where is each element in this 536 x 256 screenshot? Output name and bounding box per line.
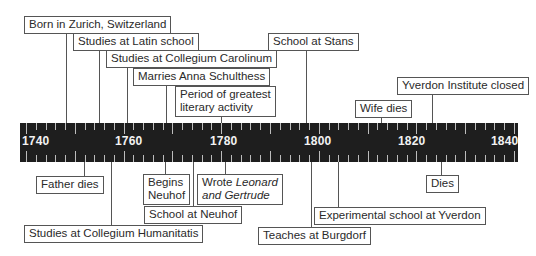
event-school-neuhof: School at Neuhof: [144, 206, 242, 224]
tick-mark: [358, 155, 359, 162]
tick-mark: [26, 151, 27, 162]
tick-mark: [280, 155, 281, 162]
connector-school-neuhof: [193, 162, 194, 210]
tick-mark: [485, 123, 486, 130]
tick-mark: [377, 155, 378, 162]
event-begins-neuhof: Begins Neuhof: [143, 174, 190, 205]
connector-latin-school: [99, 46, 100, 123]
event-wife-dies: Wife dies: [355, 100, 412, 118]
connector-humanitatis: [111, 162, 112, 234]
event-latin-school: Studies at Latin school: [73, 33, 199, 51]
tick-mark: [309, 155, 310, 162]
tick-mark: [475, 123, 476, 130]
tick-mark: [65, 155, 66, 162]
tick-mark: [290, 155, 291, 162]
event-father-dies: Father dies: [36, 176, 104, 194]
tick-mark: [514, 123, 515, 134]
tick-mark: [104, 155, 105, 162]
tick-mark: [299, 123, 300, 130]
tick-mark: [202, 123, 203, 130]
tick-mark: [319, 151, 320, 162]
tick-mark: [465, 123, 466, 134]
tick-mark: [514, 151, 515, 162]
tick-mark: [280, 123, 281, 130]
event-begins-line1: Begins: [148, 176, 185, 189]
year-label-1820: 1820: [398, 134, 426, 148]
tick-mark: [407, 155, 408, 162]
tick-mark: [329, 123, 330, 130]
tick-mark: [397, 155, 398, 162]
tick-mark: [192, 155, 193, 162]
connector-yverdon-closed: [432, 91, 433, 123]
tick-mark: [75, 151, 76, 162]
connector-burgdorf: [311, 162, 312, 230]
tick-mark: [133, 123, 134, 130]
connector-marries: [166, 82, 167, 123]
event-collegium-carolinum: Studies at Collegium Carolinum: [106, 50, 277, 68]
tick-mark: [26, 123, 27, 134]
tick-mark: [260, 123, 261, 130]
event-experimental-school: Experimental school at Yverdon: [314, 207, 486, 225]
tick-mark: [338, 123, 339, 130]
tick-mark: [46, 155, 47, 162]
tick-mark: [211, 155, 212, 162]
event-leonard-gertrude: Wrote Leonard and Gertrude: [197, 174, 283, 205]
tick-mark: [416, 151, 417, 162]
tick-mark: [250, 123, 251, 130]
tick-mark: [329, 155, 330, 162]
tick-mark: [475, 155, 476, 162]
tick-mark: [133, 155, 134, 162]
tick-mark: [319, 123, 320, 134]
tick-mark: [143, 155, 144, 162]
tick-mark: [221, 123, 222, 134]
tick-mark: [426, 123, 427, 130]
tick-mark: [446, 123, 447, 130]
tick-mark: [172, 151, 173, 162]
tick-mark: [465, 151, 466, 162]
event-teaches-burgdorf: Teaches at Burgdorf: [258, 227, 371, 245]
year-label-1740: 1740: [22, 134, 50, 148]
event-dies: Dies: [426, 175, 459, 193]
event-begins-line2: Neuhof: [148, 189, 185, 202]
tick-mark: [211, 123, 212, 130]
tick-mark: [426, 155, 427, 162]
event-wrote-title-1: Leonard: [236, 176, 278, 188]
tick-mark: [65, 123, 66, 130]
tick-mark: [270, 123, 271, 134]
connector-dies: [441, 162, 442, 175]
tick-mark: [172, 123, 173, 134]
tick-mark: [36, 155, 37, 162]
tick-mark: [397, 123, 398, 130]
tick-mark: [416, 123, 417, 134]
tick-mark: [446, 155, 447, 162]
tick-mark: [124, 123, 125, 134]
tick-mark: [436, 155, 437, 162]
tick-mark: [407, 123, 408, 130]
tick-mark: [338, 155, 339, 162]
event-literary-activity: Period of greatest literary activity: [175, 86, 276, 117]
tick-mark: [436, 123, 437, 130]
connector-born: [66, 30, 67, 123]
tick-mark: [231, 155, 232, 162]
tick-mark: [143, 123, 144, 130]
tick-mark: [290, 123, 291, 130]
event-school-stans: School at Stans: [268, 33, 359, 51]
event-collegium-humanitatis: Studies at Collegium Humanitatis: [24, 225, 203, 243]
tick-mark: [182, 123, 183, 130]
tick-mark: [358, 123, 359, 130]
tick-mark: [114, 155, 115, 162]
tick-mark: [241, 155, 242, 162]
connector-leonard-gertrude: [225, 162, 226, 174]
tick-mark: [85, 155, 86, 162]
tick-mark: [163, 123, 164, 130]
tick-mark: [504, 123, 505, 130]
tick-mark: [494, 155, 495, 162]
connector-stans: [306, 47, 307, 123]
tick-mark: [231, 123, 232, 130]
event-yverdon-closed: Yverdon Institute closed: [397, 77, 529, 95]
tick-mark: [299, 155, 300, 162]
connector-begins-neuhof: [165, 162, 166, 174]
tick-mark: [309, 123, 310, 130]
tick-mark: [250, 155, 251, 162]
tick-mark: [348, 123, 349, 130]
